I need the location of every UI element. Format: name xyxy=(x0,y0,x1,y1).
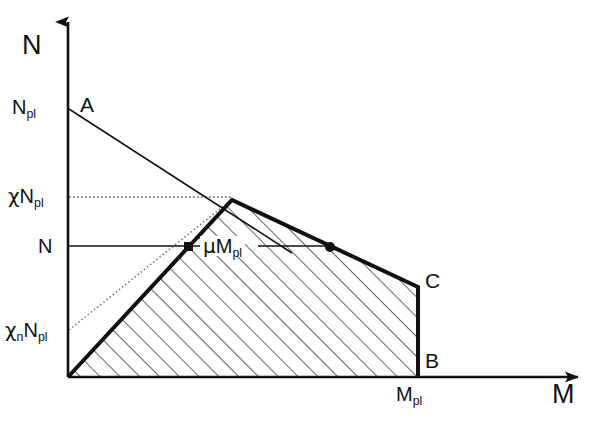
point-label-c: C xyxy=(425,270,440,291)
mu-symbol: μ xyxy=(203,234,216,258)
annotation-mu-m-pl-base: M xyxy=(216,235,233,257)
point-label-a: A xyxy=(80,94,94,115)
mu-m-pl-right-marker xyxy=(325,242,335,252)
axis-label-m: M xyxy=(552,381,575,408)
chi-n-symbol-sub: n xyxy=(17,330,24,344)
elastic-line-from-A xyxy=(69,109,292,253)
tick-label-chi-n-pl-sub: pl xyxy=(34,196,44,210)
axis-label-n: N xyxy=(22,32,42,59)
tick-label-chi-n-sub-n-pl-sub: pl xyxy=(38,330,48,344)
safe-interaction-domain-fill xyxy=(68,200,418,377)
tick-label-m-pl: Mpl xyxy=(396,384,422,404)
chi-symbol: χ xyxy=(8,184,20,208)
tick-label-n-pl-base: N xyxy=(12,96,26,118)
tick-label-n-pl: Npl xyxy=(12,97,36,117)
tick-label-chi-n-pl: χNpl xyxy=(8,186,44,206)
tick-label-chi-n-sub-n-pl-base: N xyxy=(23,319,37,341)
mu-m-pl-left-marker xyxy=(184,242,193,251)
annotation-mu-m-pl: μMpl xyxy=(200,236,245,256)
figure-root: N M Npl χNpl N χnNpl Mpl A C B μMpl xyxy=(0,0,607,424)
interaction-diagram-svg xyxy=(0,0,607,424)
annotation-mu-m-pl-sub: pl xyxy=(232,246,242,260)
tick-label-m-pl-base: M xyxy=(396,383,413,405)
chi-n-symbol: χ xyxy=(5,318,17,342)
tick-label-n-pl-sub: pl xyxy=(26,107,36,121)
point-label-b: B xyxy=(425,350,439,371)
tick-label-chi-n-sub-n-pl: χnNpl xyxy=(5,320,48,340)
tick-label-m-pl-sub: pl xyxy=(413,394,423,408)
tick-label-chi-n-pl-base: N xyxy=(20,185,34,207)
tick-label-n-level: N xyxy=(38,236,52,256)
